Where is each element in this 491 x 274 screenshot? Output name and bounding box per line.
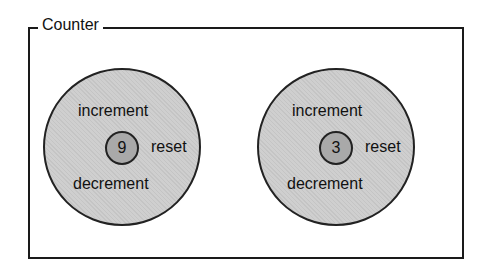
increment-button[interactable]: increment [78, 102, 148, 120]
reset-button[interactable]: reset [151, 138, 187, 156]
counter-value: 9 [105, 131, 139, 165]
decrement-button[interactable]: decrement [73, 175, 149, 193]
group-title: Counter [38, 16, 103, 34]
counter-widget-1: increment 9 reset decrement [43, 68, 201, 226]
counter-value: 3 [319, 131, 353, 165]
reset-button[interactable]: reset [365, 138, 401, 156]
decrement-button[interactable]: decrement [287, 175, 363, 193]
increment-button[interactable]: increment [292, 102, 362, 120]
counter-widget-2: increment 3 reset decrement [257, 68, 415, 226]
